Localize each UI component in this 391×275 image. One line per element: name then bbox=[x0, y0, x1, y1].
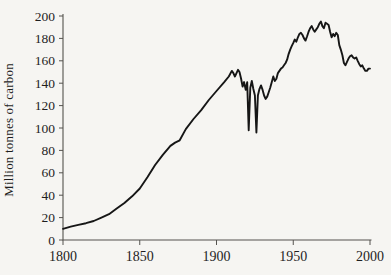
y-tick-label: 0 bbox=[48, 233, 55, 248]
y-tick-label: 200 bbox=[35, 9, 56, 24]
x-tick-label: 1800 bbox=[49, 249, 77, 264]
y-tick-label: 120 bbox=[35, 98, 56, 113]
y-tick-label: 80 bbox=[42, 143, 56, 158]
axes bbox=[63, 14, 372, 240]
x-tick-label: 1950 bbox=[279, 249, 307, 264]
chart-figure: Million tonnes of carbon 020406080100120… bbox=[0, 0, 391, 275]
x-tick-label: 1850 bbox=[126, 249, 154, 264]
y-tick-label: 40 bbox=[42, 188, 56, 203]
y-tick-label: 180 bbox=[35, 31, 56, 46]
y-tick-label: 160 bbox=[35, 53, 56, 68]
y-tick-label: 100 bbox=[35, 121, 56, 136]
x-tick-label: 2000 bbox=[356, 249, 384, 264]
carbon-emissions-line bbox=[63, 22, 370, 229]
y-tick-label: 60 bbox=[42, 165, 56, 180]
y-tick-label: 140 bbox=[35, 76, 56, 91]
y-tick-label: 20 bbox=[42, 210, 56, 225]
x-tick-label: 1900 bbox=[203, 249, 231, 264]
line-chart: 0204060801001201401601802001800185019001… bbox=[0, 0, 391, 275]
